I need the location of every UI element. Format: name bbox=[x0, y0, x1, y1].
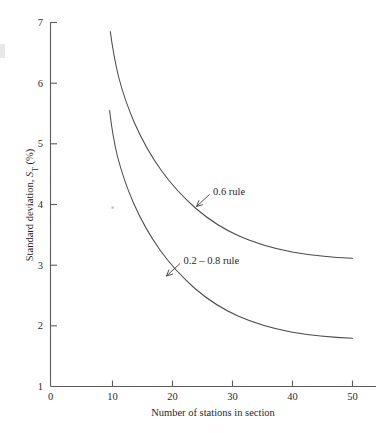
x-tick-label-0: 0 bbox=[48, 391, 53, 402]
annotation-label-0-2-0-8-rule: 0.2 – 0.8 rule bbox=[184, 255, 240, 266]
y-tick-label-5: 5 bbox=[38, 138, 43, 149]
y-tick-label-7: 7 bbox=[38, 17, 43, 28]
x-axis-title: Number of stations in section bbox=[151, 407, 275, 418]
annotation-0-6-rule: 0.6 rule bbox=[197, 186, 246, 207]
x-tick-label-20: 20 bbox=[167, 391, 178, 402]
x-tick-labels: 0 10 20 30 40 50 bbox=[48, 391, 358, 402]
x-tick-label-40: 40 bbox=[287, 391, 298, 402]
chart-figure: 7 6 5 4 3 2 1 0 10 20 30 40 50 Number of… bbox=[0, 0, 388, 433]
annotation-label-0-6-rule: 0.6 rule bbox=[213, 186, 245, 197]
y-tick-labels: 7 6 5 4 3 2 1 bbox=[38, 17, 44, 392]
annotation-0-2-0-8-rule: 0.2 – 0.8 rule bbox=[167, 255, 240, 276]
y-axis-title-main: Standard deviation, bbox=[24, 177, 35, 261]
scan-speck bbox=[112, 207, 114, 209]
x-tick-label-10: 10 bbox=[107, 391, 118, 402]
y-axis-title-unit: (%) bbox=[24, 148, 36, 167]
x-tick-label-30: 30 bbox=[227, 391, 238, 402]
y-tick-label-1: 1 bbox=[38, 381, 43, 392]
y-tick-label-3: 3 bbox=[38, 260, 43, 271]
x-tick-marks bbox=[113, 381, 353, 387]
curve-0-2-0-8-rule bbox=[110, 111, 353, 339]
y-tick-label-6: 6 bbox=[38, 78, 43, 89]
y-tick-label-2: 2 bbox=[38, 320, 43, 331]
y-tick-marks bbox=[51, 23, 58, 326]
y-tick-label-4: 4 bbox=[38, 199, 44, 210]
scan-artifact-left bbox=[0, 44, 5, 58]
axis-lines bbox=[51, 22, 377, 387]
chart-svg: 7 6 5 4 3 2 1 0 10 20 30 40 50 Number of… bbox=[0, 0, 388, 433]
x-tick-label-50: 50 bbox=[347, 391, 358, 402]
curve-0-6-rule bbox=[110, 32, 352, 259]
